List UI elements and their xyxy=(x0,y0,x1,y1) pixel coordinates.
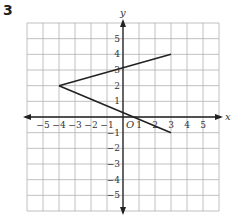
x-tick-label: −5 xyxy=(36,120,50,130)
y-tick-label: 1 xyxy=(114,96,120,106)
x-tick-label: −4 xyxy=(52,120,66,130)
y-tick-label: −3 xyxy=(107,159,121,169)
y-tick-label: −2 xyxy=(107,143,120,153)
y-tick-label: 5 xyxy=(114,34,120,44)
x-tick-label: −2 xyxy=(84,120,97,130)
y-tick-label: 4 xyxy=(114,49,120,59)
axes xyxy=(23,19,223,215)
y-tick-label: 2 xyxy=(114,81,120,91)
origin-label: O xyxy=(126,119,134,130)
y-axis-label: y xyxy=(119,7,126,18)
x-axis-label: x xyxy=(225,111,231,122)
x-tick-label: 4 xyxy=(184,120,190,130)
y-tick-label: −4 xyxy=(107,175,121,185)
y-tick-label: −1 xyxy=(107,128,120,138)
x-tick-label: 3 xyxy=(168,120,174,130)
y-tick-label: −5 xyxy=(107,190,121,200)
x-tick-label: 1 xyxy=(136,120,142,130)
x-tick-label: −3 xyxy=(68,120,82,130)
coordinate-plane: −5−4−3−2−112345−5−4−3−2−112345 x y O xyxy=(0,0,245,222)
x-tick-label: 5 xyxy=(200,120,206,130)
